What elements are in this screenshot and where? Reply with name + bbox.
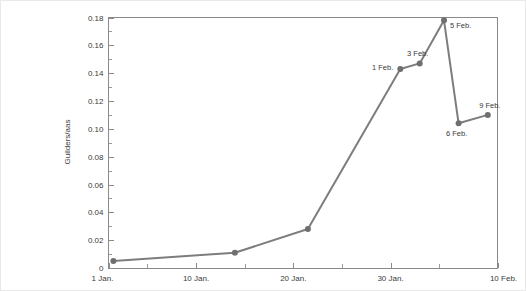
chart-screenshot: 00.020.040.060.080.100.120.140.160.18 1 …: [0, 0, 526, 291]
y-tick-label: 0: [99, 264, 104, 273]
data-point-marker-6: [456, 120, 462, 126]
y-tick-label: 0.04: [88, 208, 104, 217]
data-point-marker-4: [417, 60, 423, 66]
annotation-6-feb-: 6 Feb.: [446, 129, 467, 138]
x-tick-label: 1 Jan.: [92, 274, 114, 283]
data-point-annotations: 1 Feb.3 Feb.5 Feb.6 Feb.9 Feb.: [372, 21, 500, 138]
annotation-3-feb-: 3 Feb.: [407, 49, 428, 58]
annotation-1-feb-: 1 Feb.: [372, 63, 393, 72]
y-tick-label: 0.06: [88, 181, 104, 190]
y-tick-label: 0.16: [88, 41, 104, 50]
x-axis-ticks: [110, 263, 499, 268]
data-point-marker-2: [305, 226, 311, 232]
y-tick-label: 0.12: [88, 97, 104, 106]
data-point-marker-3: [397, 66, 403, 72]
x-tick-label: 10 Feb.: [490, 274, 517, 283]
y-tick-label: 0.14: [88, 69, 104, 78]
x-tick-label: 10 Jan.: [183, 274, 209, 283]
data-point-marker-5: [441, 17, 447, 23]
y-axis-title: Guilders/aas: [63, 120, 72, 165]
data-point-marker-7: [485, 112, 491, 118]
annotation-9-feb-: 9 Feb.: [479, 101, 500, 110]
x-tick-label: 30 Jan.: [377, 274, 403, 283]
y-tick-label: 0.10: [88, 125, 104, 134]
chart-canvas: 00.020.040.060.080.100.120.140.160.18 1 …: [0, 0, 526, 291]
data-series-line: [113, 20, 487, 261]
data-point-marker-1: [232, 250, 238, 256]
line-chart: 00.020.040.060.080.100.120.140.160.18 1 …: [0, 0, 526, 291]
y-axis-ticks: [109, 19, 114, 269]
x-tick-label: 20 Jan.: [280, 274, 306, 283]
data-point-marker-0: [110, 258, 116, 264]
y-tick-label: 0.08: [88, 153, 104, 162]
y-axis-tick-labels: 00.020.040.060.080.100.120.140.160.18: [88, 14, 104, 274]
y-tick-label: 0.02: [88, 236, 104, 245]
x-axis-tick-labels: 1 Jan.10 Jan.20 Jan.30 Jan.10 Feb.: [92, 274, 517, 283]
annotation-5-feb-: 5 Feb.: [450, 21, 471, 30]
data-point-markers: [110, 17, 490, 264]
y-tick-label: 0.18: [88, 14, 104, 23]
